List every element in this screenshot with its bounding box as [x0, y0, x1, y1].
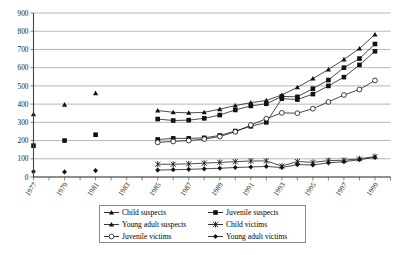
data-point: [171, 139, 176, 144]
data-point: [171, 167, 176, 172]
data-point: [202, 116, 207, 121]
data-point: [373, 49, 378, 54]
data-point: [357, 63, 362, 68]
data-point: [326, 78, 331, 83]
series-young-adult-suspects: [31, 49, 377, 148]
data-point: [310, 106, 315, 111]
y-tick-label: 300: [18, 118, 29, 127]
data-point: [171, 118, 176, 123]
x-tick-label: 1983: [116, 180, 132, 197]
data-point: [295, 111, 300, 116]
legend-marker-square-filled-icon: [207, 208, 224, 217]
data-point: [155, 117, 160, 122]
legend-marker-triangle-filled-icon: [103, 208, 120, 217]
data-point: [357, 87, 362, 92]
data-point: [248, 164, 253, 169]
legend-item-young-adult-victims: Young adult victims: [207, 232, 310, 241]
legend-item-juvenile-suspects: Juvenile suspects: [207, 208, 310, 217]
data-point: [342, 75, 347, 80]
data-point: [62, 138, 67, 143]
data-point: [186, 167, 191, 172]
data-point: [233, 129, 238, 134]
data-point: [341, 57, 346, 62]
data-point: [186, 138, 191, 143]
data-point: [248, 123, 253, 128]
data-point: [264, 101, 269, 106]
data-point: [326, 84, 331, 89]
data-point: [342, 93, 347, 98]
data-point: [62, 169, 67, 174]
legend-item-child-suspects: Child suspects: [103, 208, 207, 217]
data-point: [310, 162, 315, 167]
x-axis-labels: 1977197919811983198519871989199119931995…: [23, 180, 380, 197]
chart-page: 0100200300400500600700800900 19771979198…: [0, 0, 404, 255]
data-point: [280, 96, 285, 101]
legend-label: Child victims: [226, 220, 267, 229]
data-point: [186, 118, 191, 123]
legend-marker-triangle-filled-icon: [103, 220, 120, 229]
series-layer: [31, 32, 378, 175]
legend-label: Juvenile suspects: [226, 208, 279, 217]
data-point: [93, 91, 98, 96]
data-point: [155, 140, 160, 145]
chart-legend: Child suspectsJuvenile suspectsYoung adu…: [99, 205, 306, 243]
gridlines: [34, 13, 391, 177]
x-tick-label: 1993: [271, 180, 287, 197]
x-tick-label: 1989: [209, 180, 225, 197]
y-tick-label: 200: [18, 136, 29, 145]
x-tick-label: 1981: [85, 180, 101, 197]
y-axis-labels: 0100200300400500600700800900: [18, 9, 29, 182]
legend-marker-diamond-filled-icon: [207, 232, 224, 241]
y-tick-label: 600: [18, 63, 29, 72]
x-tick-label: 1979: [54, 180, 70, 197]
data-point: [279, 110, 284, 115]
legend-marker-circle-open-icon: [103, 232, 120, 241]
y-tick-label: 100: [18, 154, 29, 163]
data-point: [217, 166, 222, 171]
data-point: [264, 164, 269, 169]
data-point: [93, 132, 98, 137]
data-point: [373, 42, 378, 47]
legend-label: Juvenile victims: [122, 232, 172, 241]
legend-label: Child suspects: [122, 208, 166, 217]
y-tick-label: 500: [18, 82, 29, 91]
legend-marker: [213, 233, 218, 238]
y-tick-label: 800: [18, 27, 29, 36]
data-point: [264, 116, 269, 121]
data-point: [373, 78, 378, 83]
legend-marker: [109, 234, 114, 239]
x-tick-label: 1991: [240, 180, 256, 197]
series-line: [158, 44, 375, 121]
data-point: [357, 157, 362, 162]
legend-item-young-adult-suspects: Young adult suspects: [103, 220, 207, 229]
data-point: [295, 85, 300, 90]
data-point: [202, 137, 207, 142]
legend-label: Young adult victims: [226, 232, 287, 241]
x-tick-label: 1987: [178, 180, 194, 197]
data-point: [311, 86, 316, 91]
data-point: [342, 65, 347, 70]
data-point: [217, 113, 222, 118]
data-point: [93, 168, 98, 173]
data-point: [155, 167, 160, 172]
legend-marker: [213, 210, 218, 215]
legend-marker-cross-x-icon: [207, 220, 224, 229]
legend-item-juvenile-victims: Juvenile victims: [103, 232, 207, 241]
series-line: [158, 80, 375, 142]
data-point: [249, 104, 254, 109]
data-point: [217, 134, 222, 139]
y-tick-label: 700: [18, 45, 29, 54]
x-tick-label: 1985: [147, 180, 163, 197]
y-tick-label: 400: [18, 100, 29, 109]
y-tick-label: 900: [18, 9, 29, 18]
legend-label: Young adult suspects: [122, 220, 186, 229]
data-point: [311, 92, 316, 97]
data-point: [155, 108, 160, 113]
x-tick-label: 1977: [23, 180, 39, 197]
data-point: [233, 108, 238, 113]
x-tick-label: 1995: [302, 180, 318, 197]
data-point: [326, 100, 331, 105]
data-point: [295, 97, 300, 102]
data-point: [233, 165, 238, 170]
y-tick-label: 0: [25, 173, 29, 182]
